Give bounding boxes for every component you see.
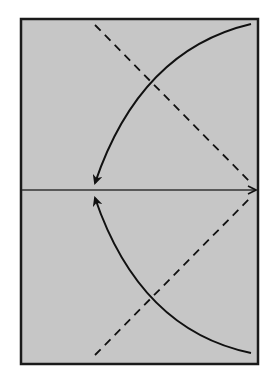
ray-diagram (0, 0, 271, 369)
diagram-canvas (0, 0, 271, 369)
